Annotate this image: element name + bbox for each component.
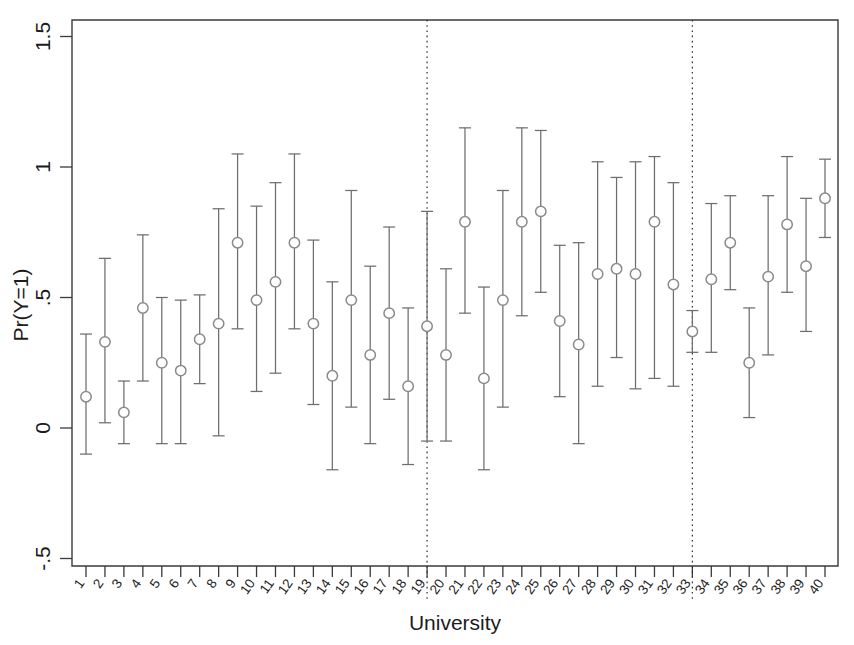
- data-point-group: [611, 177, 623, 357]
- x-tick-label: 19: [408, 576, 429, 597]
- x-tick-label: 36: [730, 576, 751, 597]
- x-tick-label: 15: [332, 576, 353, 597]
- x-tick-label: 4: [128, 576, 145, 591]
- figure-panel: -.50.511.5 12345678910111213141516171819…: [0, 0, 854, 645]
- point-marker: [422, 321, 432, 331]
- data-point-group: [440, 269, 452, 441]
- x-tick-label: 31: [635, 576, 656, 597]
- point-marker: [763, 271, 773, 281]
- x-tick-label: 32: [654, 576, 675, 597]
- x-tick-label: 2: [90, 576, 107, 591]
- data-point-group: [251, 206, 263, 391]
- point-marker: [194, 334, 204, 344]
- data-point-group: [307, 240, 319, 404]
- data-point-group: [175, 300, 187, 444]
- point-marker: [365, 350, 375, 360]
- point-marker: [744, 358, 754, 368]
- data-point-group: [573, 243, 585, 444]
- data-point-group: [800, 198, 812, 331]
- y-axis-tick-labels: -.50.511.5: [31, 22, 54, 571]
- point-marker: [327, 371, 337, 381]
- point-marker: [176, 365, 186, 375]
- data-point-group: [345, 190, 357, 407]
- x-tick-label: 1: [71, 576, 88, 591]
- data-point-group: [630, 162, 642, 389]
- x-tick-label: 23: [483, 576, 504, 597]
- data-point-group: [535, 130, 547, 292]
- point-marker: [232, 237, 242, 247]
- y-tick-label: 0: [31, 422, 54, 434]
- x-tick-label: 38: [768, 576, 789, 597]
- point-marker: [630, 269, 640, 279]
- x-tick-label: 7: [185, 576, 202, 591]
- x-tick-label: 28: [578, 576, 599, 597]
- point-marker: [251, 295, 261, 305]
- point-marker: [592, 269, 602, 279]
- point-marker: [479, 373, 489, 383]
- y-axis-title: Pr(Y=1): [9, 269, 32, 342]
- data-point-group: [762, 196, 774, 355]
- point-marker: [725, 237, 735, 247]
- x-axis-title: University: [409, 611, 502, 634]
- x-tick-label: 16: [351, 576, 372, 597]
- data-point-group: [516, 128, 528, 316]
- x-tick-label: 29: [597, 576, 618, 597]
- point-marker: [649, 217, 659, 227]
- data-point-group: [99, 258, 111, 422]
- point-marker: [611, 264, 621, 274]
- point-marker: [555, 316, 565, 326]
- point-marker: [668, 279, 678, 289]
- point-marker: [403, 381, 413, 391]
- data-point-group: [724, 196, 736, 290]
- point-marker: [517, 217, 527, 227]
- x-tick-label: 8: [204, 576, 221, 591]
- data-point-group: [459, 128, 471, 313]
- data-point-group: [213, 209, 225, 436]
- point-marker: [289, 237, 299, 247]
- point-marker: [801, 261, 811, 271]
- x-tick-label: 12: [275, 576, 296, 597]
- x-tick-label: 40: [806, 576, 827, 597]
- data-point-group: [819, 159, 831, 237]
- point-marker: [81, 391, 91, 401]
- data-point-group: [705, 204, 717, 353]
- data-point-group: [326, 282, 338, 470]
- data-point-group: [80, 334, 92, 454]
- x-tick-label: 5: [147, 576, 164, 591]
- point-marker: [498, 295, 508, 305]
- x-tick-label: 27: [559, 576, 580, 597]
- data-point-group: [554, 245, 566, 396]
- point-marker: [820, 193, 830, 203]
- point-marker: [270, 277, 280, 287]
- data-point-group: [137, 235, 149, 381]
- x-tick-label: 39: [787, 576, 808, 597]
- plot-frame: [72, 20, 838, 566]
- point-marker: [100, 337, 110, 347]
- data-point-group: [648, 157, 660, 379]
- y-tick-label: 1: [31, 161, 54, 173]
- data-point-group: [364, 266, 376, 443]
- data-point-group: [194, 295, 206, 384]
- x-tick-label: 6: [166, 576, 183, 591]
- x-tick-label: 13: [294, 576, 315, 597]
- y-axis-ticks: [60, 37, 72, 559]
- x-tick-label: 11: [257, 576, 277, 596]
- x-tick-label: 3: [109, 576, 126, 591]
- data-point-group: [118, 381, 130, 444]
- data-point-group: [592, 162, 604, 386]
- x-tick-label: 22: [464, 576, 485, 597]
- point-marker: [119, 407, 129, 417]
- x-tick-label: 25: [521, 576, 542, 597]
- x-tick-label: 33: [673, 576, 694, 597]
- x-axis-ticks: [86, 566, 825, 577]
- x-axis-tick-labels: 1234567891011121314151617181920212223242…: [71, 576, 827, 597]
- data-points-layer: [80, 128, 831, 470]
- x-tick-label: 20: [427, 576, 448, 597]
- data-point-group: [232, 154, 244, 329]
- y-tick-label: -.5: [31, 546, 54, 571]
- data-point-group: [269, 183, 281, 374]
- x-tick-label: 35: [711, 576, 732, 597]
- data-point-group: [421, 211, 433, 441]
- x-tick-label: 26: [540, 576, 561, 597]
- x-tick-label: 34: [692, 576, 713, 597]
